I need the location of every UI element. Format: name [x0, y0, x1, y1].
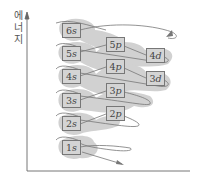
orbital-l: s	[72, 142, 77, 153]
orbital-l: p	[115, 39, 121, 50]
orbital-energy-diagram: 에 너 지 1s 2s 2p 3s 3p 4s 3d 4p 5s 4d 5p 6…	[0, 0, 198, 174]
orbital-box-4d: 4d	[146, 48, 165, 63]
y-axis-label-char: 지	[12, 34, 24, 46]
y-axis-label-char: 너	[12, 22, 24, 34]
orbital-box-2s: 2s	[62, 116, 81, 131]
orbital-box-4p: 4p	[106, 59, 125, 74]
start-arrow-icon	[116, 160, 124, 165]
orbital-l: p	[115, 61, 121, 72]
orbital-box-2p: 2p	[106, 106, 125, 121]
y-axis-label: 에 너 지	[12, 10, 24, 46]
orbital-l: p	[115, 108, 121, 119]
orbital-l: p	[115, 85, 121, 96]
orbital-l: s	[72, 48, 77, 59]
diagram-canvas	[0, 0, 198, 174]
orbital-box-1s: 1s	[62, 140, 81, 155]
orbital-l: s	[72, 118, 77, 129]
orbital-box-5p: 5p	[106, 37, 125, 52]
orbital-box-5s: 5s	[62, 46, 81, 61]
orbital-l: s	[72, 25, 77, 36]
orbital-l: d	[155, 73, 161, 84]
orbital-box-3p: 3p	[106, 83, 125, 98]
orbital-l: s	[72, 71, 77, 82]
orbital-box-3s: 3s	[62, 93, 81, 108]
y-axis-arrow-icon	[25, 12, 29, 19]
orbital-l: s	[72, 95, 77, 106]
orbital-l: d	[155, 50, 161, 61]
orbital-box-4s: 4s	[62, 69, 81, 84]
orbital-box-3d: 3d	[146, 71, 165, 86]
orbital-box-6s: 6s	[62, 23, 81, 38]
y-axis-label-char: 에	[12, 10, 24, 22]
